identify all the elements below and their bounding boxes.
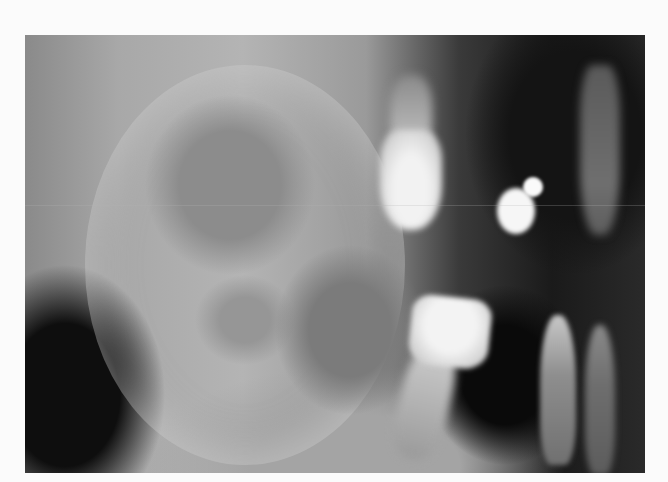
upper-anterior-tooth [580, 65, 620, 235]
cystic-lesion-upper [145, 95, 315, 275]
metallic-restoration-small [523, 177, 543, 197]
dental-xray-image [25, 35, 645, 473]
upper-molar-crown [380, 130, 442, 230]
lower-molar-crown [407, 293, 494, 371]
lower-incisor-2 [585, 325, 615, 473]
scan-artifact-line [25, 205, 645, 206]
lower-incisor-1 [540, 315, 576, 465]
